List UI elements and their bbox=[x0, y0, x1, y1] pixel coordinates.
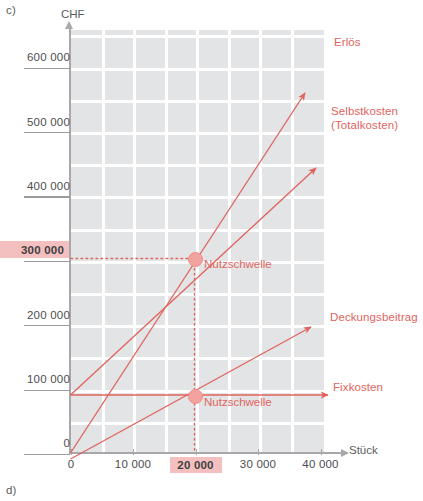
series-label-erloes: Erlös bbox=[334, 36, 361, 50]
series-label-fixkosten: Fixkosten bbox=[333, 381, 383, 395]
series-label-selbstkosten: Selbstkosten (Totalkosten) bbox=[331, 105, 398, 132]
breakeven-label-upper: Nutzschwelle bbox=[204, 258, 272, 270]
series-label-selbstkosten-line2: (Totalkosten) bbox=[331, 119, 398, 131]
series-label-deckungsbeitrag: Deckungsbeitrag bbox=[330, 311, 418, 325]
series-label-selbstkosten-line1: Selbstkosten bbox=[331, 105, 398, 117]
breakeven-marker-lower bbox=[188, 389, 203, 404]
breakeven-marker-upper bbox=[188, 252, 203, 267]
breakeven-label-lower: Nutzschwelle bbox=[204, 396, 272, 408]
series-line-selbstkosten bbox=[71, 168, 317, 395]
series-overlay bbox=[0, 0, 423, 501]
